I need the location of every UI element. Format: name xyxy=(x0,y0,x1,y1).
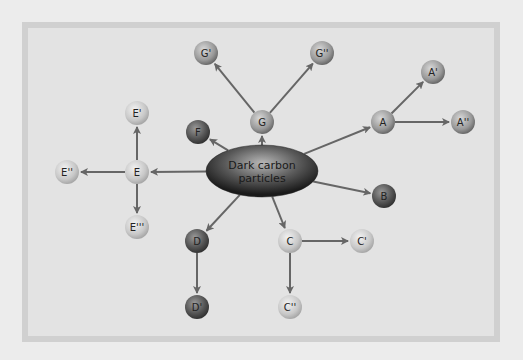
node-label: C xyxy=(287,236,294,247)
node-label: F xyxy=(195,127,201,138)
arrow-center-to-B xyxy=(313,181,370,193)
node-c2[interactable]: C'' xyxy=(278,295,302,319)
arrow-G-to-G2 xyxy=(270,64,313,113)
node-c[interactable]: C xyxy=(278,229,302,253)
arrow-center-to-D xyxy=(207,195,240,231)
node-c1[interactable]: C' xyxy=(350,229,374,253)
node-d1[interactable]: D' xyxy=(185,295,209,319)
arrow-center-to-F xyxy=(210,139,228,150)
node-label: E'' xyxy=(61,167,73,178)
node-g[interactable]: G xyxy=(250,110,274,134)
node-label: B xyxy=(381,191,388,202)
particle-diagram: Dark carbon particles E'EE''E'''FGG'G''A… xyxy=(0,0,523,360)
node-e3[interactable]: E''' xyxy=(125,215,149,239)
node-a1[interactable]: A' xyxy=(421,60,445,84)
node-a[interactable]: A xyxy=(371,110,395,134)
node-e1[interactable]: E' xyxy=(125,101,149,125)
node-d[interactable]: D xyxy=(185,229,209,253)
arrow-center-to-A xyxy=(304,127,370,154)
node-label: A'' xyxy=(457,117,469,128)
arrow-center-to-C xyxy=(272,197,285,228)
node-label: E' xyxy=(132,108,141,119)
center-label-line2: particles xyxy=(238,172,285,185)
node-label: C'' xyxy=(284,302,296,313)
node-label: G' xyxy=(201,48,212,59)
node-g2[interactable]: G'' xyxy=(310,41,334,65)
node-e[interactable]: E xyxy=(125,160,149,184)
node-f[interactable]: F xyxy=(186,120,210,144)
node-label: E''' xyxy=(130,222,145,233)
node-label: E xyxy=(134,167,140,178)
center-node[interactable]: Dark carbon particles xyxy=(206,145,318,197)
node-label: D' xyxy=(192,302,202,313)
node-label: A xyxy=(380,117,387,128)
node-label: C' xyxy=(357,236,367,247)
node-a2[interactable]: A'' xyxy=(451,110,475,134)
arrow-G-to-G1 xyxy=(215,64,255,113)
node-label: A' xyxy=(428,67,438,78)
node-b[interactable]: B xyxy=(372,184,396,208)
node-label: D xyxy=(193,236,201,247)
arrow-A-to-A1 xyxy=(391,82,423,114)
center-label-line1: Dark carbon xyxy=(228,159,296,172)
node-g1[interactable]: G' xyxy=(194,41,218,65)
node-e2[interactable]: E'' xyxy=(55,160,79,184)
node-label: G'' xyxy=(315,48,328,59)
node-label: G xyxy=(258,117,266,128)
